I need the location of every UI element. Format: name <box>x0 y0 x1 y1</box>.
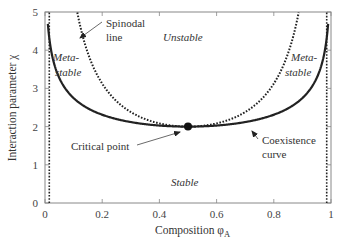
y-tick-label: 2 <box>33 121 39 133</box>
spinodal-line <box>77 12 298 126</box>
x-axis-label-main: Composition φ <box>155 224 224 237</box>
x-tick-label: 0.4 <box>153 208 167 220</box>
x-tick-label: 0.2 <box>95 208 109 220</box>
coexistence-label-line2: curve <box>262 148 287 160</box>
metastable-right-label-line1: Meta- <box>290 51 318 63</box>
metastable-right-label-line2: stable <box>285 66 311 78</box>
coexistence-label-line1: Coexistence <box>262 134 316 146</box>
y-axis-label: Interaction parameter χ <box>6 54 19 162</box>
metastable-left-label-line2: stable <box>55 66 81 78</box>
y-tick-label: 5 <box>33 6 39 18</box>
critical-point-label: Critical point <box>71 140 129 152</box>
x-axis-label: Composition φA <box>155 224 231 239</box>
spinodal-arrow <box>80 22 102 38</box>
spinodal-label-line2: line <box>106 31 123 43</box>
unstable-region-label: Unstable <box>163 31 203 43</box>
stable-region-label: Stable <box>171 176 199 188</box>
coexistence-arrow <box>252 131 258 139</box>
spinodal-label-line1: Spinodal <box>106 17 145 29</box>
y-tick-label: 4 <box>33 44 39 56</box>
metastable-left-label-line1: Meta- <box>52 51 80 63</box>
critical-point-marker <box>184 123 192 131</box>
y-tick-label: 0 <box>33 197 39 209</box>
y-tick-label: 1 <box>33 159 39 171</box>
x-tick-label: 0 <box>42 208 48 220</box>
x-tick-label: 1 <box>328 208 334 220</box>
x-tick-label: 0.8 <box>267 208 281 220</box>
critical-point-arrow <box>137 132 180 145</box>
phase-diagram-chart: 00.20.40.60.81012345 Spinodal line Unsta… <box>0 0 348 247</box>
x-tick-label: 0.6 <box>210 208 224 220</box>
y-tick-label: 3 <box>33 82 39 94</box>
x-axis-label-subscript: A <box>224 229 231 239</box>
